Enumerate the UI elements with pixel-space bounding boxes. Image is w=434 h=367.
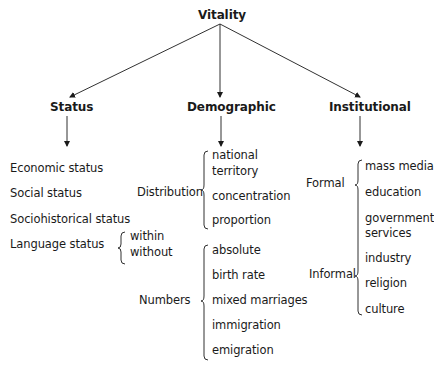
- informal-item: religion: [365, 276, 407, 290]
- root-node-vitality: Vitality: [198, 8, 246, 22]
- category-demographic: Demographic: [187, 100, 276, 114]
- formal-item: mass media: [365, 159, 434, 173]
- arrow-vitality-to-status: [70, 24, 220, 97]
- status-item: Sociohistorical status: [10, 212, 130, 226]
- numbers-item: absolute: [212, 243, 261, 257]
- distribution-item: territory: [212, 164, 258, 178]
- numbers-item: emigration: [212, 343, 274, 357]
- formal-item: services: [365, 226, 411, 240]
- brace-formal: [355, 160, 362, 236]
- distribution-item: concentration: [212, 189, 290, 203]
- numbers-item: mixed marriages: [212, 293, 308, 307]
- language-sub-item: without: [130, 245, 173, 259]
- status-item: Economic status: [10, 161, 103, 175]
- informal-item: industry: [365, 251, 411, 265]
- brace-numbers: [201, 245, 208, 360]
- status-item: Language status: [10, 237, 104, 251]
- formal-item: government: [365, 211, 434, 225]
- distribution-label: Distribution: [137, 185, 203, 199]
- distribution-item: proportion: [212, 213, 271, 227]
- distribution-item: national: [212, 148, 258, 162]
- informal-item: culture: [365, 302, 404, 316]
- numbers-label: Numbers: [139, 293, 191, 307]
- arrow-vitality-to-institutional: [220, 24, 360, 97]
- brace-informal: [355, 236, 362, 315]
- formal-item: education: [365, 185, 421, 199]
- numbers-item: immigration: [212, 318, 281, 332]
- language-sub-item: within: [130, 229, 164, 243]
- brace-language-status: [118, 232, 125, 264]
- numbers-item: birth rate: [212, 268, 265, 282]
- formal-label: Formal: [306, 176, 345, 190]
- category-status: Status: [50, 100, 93, 114]
- status-item: Social status: [10, 186, 82, 200]
- category-institutional: Institutional: [329, 100, 411, 114]
- informal-label: Informal: [309, 267, 356, 281]
